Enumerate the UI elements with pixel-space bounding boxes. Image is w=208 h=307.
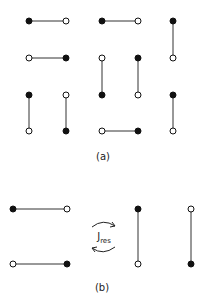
filled-site-icon [99,18,105,24]
open-site-icon [170,128,176,134]
open-site-icon [135,18,141,24]
filled-site-icon [188,261,194,267]
dimer-bond [188,206,194,267]
dimer-bond [99,18,141,24]
open-site-icon [135,261,141,267]
dimer-bond [10,261,70,267]
filled-site-icon [135,128,141,134]
panel-a-label: (a) [96,151,110,162]
dimer-bond [10,206,70,212]
filled-site-icon [99,92,105,98]
open-site-icon [99,55,105,61]
filled-site-icon [170,18,176,24]
filled-site-icon [26,92,32,98]
filled-site-icon [135,55,141,61]
dimer-bond [99,128,141,134]
open-site-icon [26,128,32,134]
filled-site-icon [135,206,141,212]
open-site-icon [188,206,194,212]
dimer-bond [26,92,32,134]
dimer-bond [63,92,69,134]
filled-site-icon [63,55,69,61]
filled-site-icon [26,18,32,24]
dimer-bond [170,92,176,134]
open-site-icon [99,128,105,134]
filled-site-icon [10,206,16,212]
panel-b-label: (b) [95,282,109,293]
open-site-icon [170,55,176,61]
open-site-icon [63,18,69,24]
dimer-bond [26,18,69,24]
dimer-bond [170,18,176,61]
open-site-icon [64,206,70,212]
open-site-icon [10,261,16,267]
dimer-bond [99,55,105,98]
dimer-bond [135,55,141,98]
resonance-coupling-label: Jres [97,231,111,245]
dimer-bond [135,206,141,267]
open-site-icon [63,92,69,98]
dimer-bond [26,55,69,61]
open-site-icon [135,92,141,98]
filled-site-icon [64,261,70,267]
panel-a-dimers [26,18,176,134]
filled-site-icon [63,128,69,134]
filled-site-icon [170,92,176,98]
open-site-icon [26,55,32,61]
